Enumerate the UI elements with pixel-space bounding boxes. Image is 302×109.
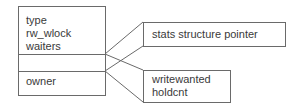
field-writewanted: writewanted [152, 73, 211, 86]
field-waiters: waiters [26, 40, 61, 53]
field-holdcnt: holdcnt [152, 86, 187, 99]
stats-pointer-label: stats structure pointer [152, 28, 258, 41]
field-type: type [26, 14, 47, 27]
field-owner: owner [26, 75, 56, 88]
struct-divider-1 [18, 54, 106, 55]
struct-divider-2 [18, 71, 106, 72]
field-rw-wlock: rw_wlock [26, 27, 71, 40]
